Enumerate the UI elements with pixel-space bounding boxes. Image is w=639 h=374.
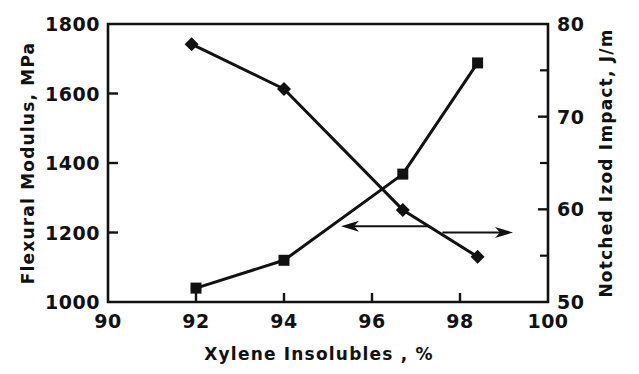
data-point-marker	[279, 255, 290, 266]
chart-figure: 9092949698100 10001200140016001800 50607…	[0, 0, 639, 374]
y2-tick-label: 60	[557, 198, 584, 220]
y-tick-label: 1000	[45, 291, 100, 313]
y2-tick-label: 70	[557, 106, 584, 128]
y-axis-right-title: Notched Izod Impact, J/m	[596, 28, 616, 297]
y-tick-label: 1600	[45, 83, 100, 105]
y2-tick-label: 50	[557, 291, 584, 313]
x-tick-label: 96	[358, 310, 385, 332]
chart-canvas: 9092949698100 10001200140016001800 50607…	[0, 0, 639, 374]
x-tick-label: 90	[94, 310, 121, 332]
y-tick-label: 1400	[45, 152, 100, 174]
x-tick-label: 94	[270, 310, 297, 332]
data-point-marker	[397, 169, 408, 180]
x-tick-label: 100	[527, 310, 568, 332]
data-point-marker	[472, 57, 483, 68]
y2-tick-label: 80	[557, 13, 584, 35]
x-tick-label: 98	[446, 310, 473, 332]
x-tick-label: 92	[182, 310, 209, 332]
y-tick-label: 1200	[45, 222, 100, 244]
x-axis-title: Xylene Insolubles , %	[204, 344, 433, 364]
y-tick-label: 1800	[45, 13, 100, 35]
data-point-marker	[191, 283, 202, 294]
y-axis-left-title: Flexural Modulus, MPa	[18, 42, 38, 285]
